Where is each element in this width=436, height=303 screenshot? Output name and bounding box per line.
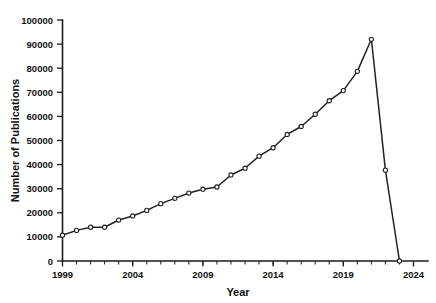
data-point-marker xyxy=(327,99,331,103)
data-point-marker xyxy=(397,259,401,263)
y-tick-label: 70000 xyxy=(27,87,53,98)
data-point-marker xyxy=(103,225,107,229)
x-tick-label: 2009 xyxy=(192,269,213,280)
publications-line-chart: 100000 90000 80000 70000 60000 50000 400… xyxy=(0,0,436,303)
data-point-marker xyxy=(299,124,303,128)
chart-canvas: 100000 90000 80000 70000 60000 50000 400… xyxy=(0,0,436,303)
y-tick-label: 100000 xyxy=(21,15,53,26)
x-tick-label: 2024 xyxy=(403,269,425,280)
data-point-marker xyxy=(341,89,345,93)
data-point-marker xyxy=(145,208,149,212)
x-tick-label: 2019 xyxy=(333,269,354,280)
y-tick-label: 80000 xyxy=(27,63,53,74)
data-point-marker xyxy=(60,233,64,237)
data-point-marker xyxy=(215,185,219,189)
x-axis-title: Year xyxy=(226,286,250,298)
y-tick-label: 10000 xyxy=(27,231,53,242)
data-point-marker xyxy=(173,196,177,200)
y-tick-label: 30000 xyxy=(27,183,53,194)
y-tick-label: 60000 xyxy=(27,111,53,122)
y-tick-label: 90000 xyxy=(27,39,53,50)
data-point-marker xyxy=(159,202,163,206)
data-point-marker xyxy=(271,146,275,150)
x-tick-label: 1999 xyxy=(52,269,73,280)
data-point-marker xyxy=(88,225,92,229)
data-point-marker xyxy=(74,228,78,232)
y-axis-title: Number of Publications xyxy=(9,79,21,202)
data-point-marker xyxy=(369,37,373,41)
x-tick-label: 2014 xyxy=(263,269,285,280)
y-tick-label: 0 xyxy=(48,256,53,267)
data-point-marker xyxy=(383,168,387,172)
y-tick-label: 50000 xyxy=(27,135,53,146)
data-point-marker xyxy=(187,191,191,195)
data-point-marker xyxy=(201,187,205,191)
data-point-marker xyxy=(313,112,317,116)
y-tick-label: 40000 xyxy=(27,159,53,170)
data-point-marker xyxy=(243,166,247,170)
data-point-marker xyxy=(229,173,233,177)
data-point-marker xyxy=(355,69,359,73)
x-tick-label: 2004 xyxy=(122,269,144,280)
y-tick-label: 20000 xyxy=(27,207,53,218)
data-point-marker xyxy=(117,218,121,222)
chart-background xyxy=(0,0,436,303)
data-point-marker xyxy=(131,214,135,218)
data-point-marker xyxy=(285,132,289,136)
data-point-marker xyxy=(257,154,261,158)
